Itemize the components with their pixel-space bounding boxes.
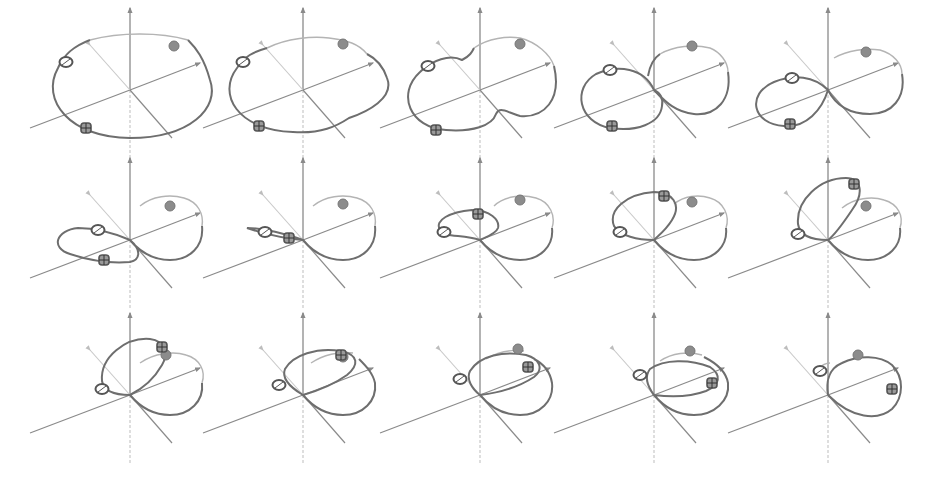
filled-disk-marker bbox=[515, 39, 525, 49]
open-ring-marker bbox=[422, 61, 435, 71]
panel-3 bbox=[380, 8, 556, 158]
cross-square-marker bbox=[887, 384, 897, 394]
cross-square-marker bbox=[659, 191, 669, 201]
cross-square-marker bbox=[849, 179, 859, 189]
filled-disk-marker bbox=[687, 41, 697, 51]
filled-disk-marker bbox=[861, 201, 871, 211]
loop-back-segment bbox=[474, 37, 554, 66]
loop-curve bbox=[102, 339, 202, 415]
panel-7 bbox=[203, 158, 375, 308]
open-ring-marker bbox=[438, 227, 451, 237]
open-ring-marker bbox=[454, 374, 467, 384]
open-ring-marker bbox=[259, 227, 272, 237]
cross-square-marker bbox=[284, 233, 294, 243]
open-ring-marker bbox=[237, 57, 250, 67]
open-ring-marker bbox=[60, 57, 73, 67]
cross-square-marker bbox=[785, 119, 795, 129]
cross-square-marker bbox=[523, 362, 533, 372]
open-ring-marker bbox=[92, 225, 105, 235]
panel-5 bbox=[728, 8, 903, 158]
cross-square-marker bbox=[707, 378, 717, 388]
cross-square-marker bbox=[81, 123, 91, 133]
loop-curve bbox=[756, 74, 903, 126]
panel-1 bbox=[30, 8, 212, 158]
filled-disk-marker bbox=[861, 47, 871, 57]
open-ring-marker bbox=[604, 65, 617, 75]
cross-square-marker bbox=[336, 350, 346, 360]
loop-curve bbox=[284, 350, 375, 415]
cross-square-marker bbox=[254, 121, 264, 131]
diagram-canvas bbox=[0, 0, 950, 487]
filled-disk-marker bbox=[685, 346, 695, 356]
panel-11 bbox=[30, 313, 203, 463]
open-ring-marker bbox=[614, 227, 627, 237]
panel-14 bbox=[554, 313, 728, 463]
cross-square-marker bbox=[157, 342, 167, 352]
loop-back-segment bbox=[90, 34, 188, 40]
open-ring-marker bbox=[273, 380, 286, 390]
panel-9 bbox=[554, 158, 727, 308]
filled-disk-marker bbox=[687, 197, 697, 207]
loop-back-segment bbox=[660, 353, 702, 361]
panel-10 bbox=[728, 158, 901, 308]
open-ring-marker bbox=[792, 229, 805, 239]
filled-disk-marker bbox=[513, 344, 523, 354]
loop-curve bbox=[439, 210, 552, 260]
panel-4 bbox=[554, 8, 729, 158]
filled-disk-marker bbox=[515, 195, 525, 205]
panel-13 bbox=[380, 313, 552, 463]
filled-disk-marker bbox=[165, 201, 175, 211]
filled-disk-marker bbox=[169, 41, 179, 51]
panel-8 bbox=[380, 158, 553, 308]
loop-curve bbox=[469, 354, 552, 415]
filled-disk-marker bbox=[338, 39, 348, 49]
loop-curve bbox=[229, 48, 388, 132]
filled-disk-marker bbox=[853, 350, 863, 360]
open-ring-marker bbox=[786, 73, 799, 83]
cross-square-marker bbox=[607, 121, 617, 131]
loop-back-segment bbox=[674, 196, 727, 228]
loop-curve bbox=[581, 54, 728, 129]
panel-15 bbox=[728, 313, 901, 463]
loop-curve bbox=[798, 178, 900, 260]
loop-back-segment bbox=[267, 37, 367, 54]
panel-2 bbox=[203, 8, 388, 158]
cross-square-marker bbox=[431, 125, 441, 135]
open-ring-marker bbox=[814, 366, 827, 376]
open-ring-marker bbox=[634, 370, 647, 380]
panel-12 bbox=[203, 313, 375, 463]
filled-disk-marker bbox=[338, 199, 348, 209]
figure bbox=[0, 0, 950, 487]
cross-square-marker bbox=[99, 255, 109, 265]
panel-6 bbox=[30, 158, 202, 308]
cross-square-marker bbox=[473, 209, 483, 219]
open-ring-marker bbox=[96, 384, 109, 394]
